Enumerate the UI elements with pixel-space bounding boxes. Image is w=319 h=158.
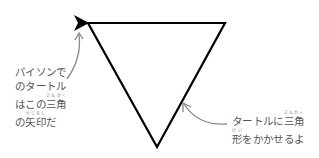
right-annotation-line-2: 形けいをかかせるよ — [232, 128, 304, 146]
turtle-arrow-icon — [74, 15, 89, 31]
left-annotation-line-3: はこの三角さんかく — [15, 93, 67, 111]
left-annotation: パイソンで のタートル はこの三角さんかく の矢印やじるしだ — [15, 65, 67, 129]
left-pointer-arrow — [67, 34, 80, 79]
left-annotation-line-4: の矢印やじるしだ — [15, 111, 67, 129]
triangle-shape — [88, 23, 225, 147]
right-annotation: タートルに三角さんかっ 形けいをかかせるよ — [232, 110, 304, 146]
left-annotation-line-2: のタートル — [15, 79, 67, 93]
right-annotation-line-1: タートルに三角さんかっ — [232, 110, 304, 128]
left-annotation-line-1: パイソンで — [15, 65, 67, 79]
